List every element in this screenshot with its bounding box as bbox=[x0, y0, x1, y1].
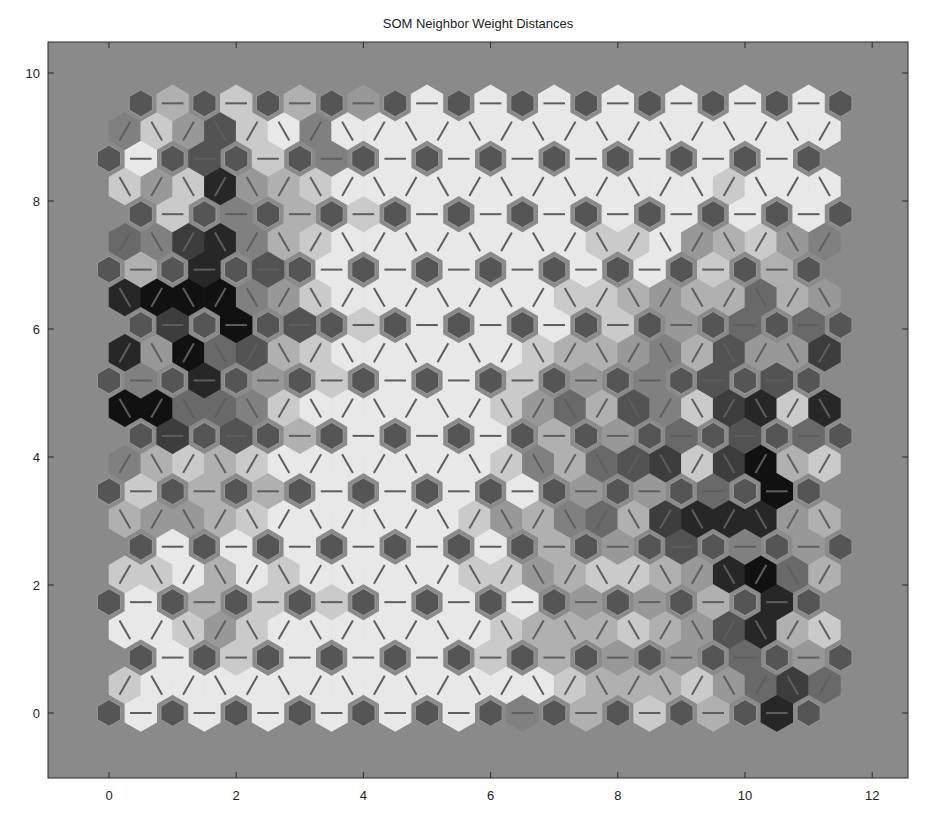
y-tick-label: 8 bbox=[33, 194, 40, 209]
x-tick-label: 2 bbox=[233, 788, 240, 803]
y-tick-label: 10 bbox=[26, 66, 40, 81]
x-tick-label: 8 bbox=[614, 788, 621, 803]
x-tick-label: 4 bbox=[360, 788, 367, 803]
x-tick-label: 0 bbox=[105, 788, 112, 803]
som-plot: 024681012 0246810 bbox=[0, 0, 940, 827]
y-tick-label: 0 bbox=[33, 706, 40, 721]
x-tick-label: 6 bbox=[487, 788, 494, 803]
y-tick-label: 2 bbox=[33, 578, 40, 593]
y-tick-label: 6 bbox=[33, 322, 40, 337]
x-tick-label: 10 bbox=[738, 788, 752, 803]
y-tick-label: 4 bbox=[33, 450, 40, 465]
x-tick-label: 12 bbox=[865, 788, 879, 803]
